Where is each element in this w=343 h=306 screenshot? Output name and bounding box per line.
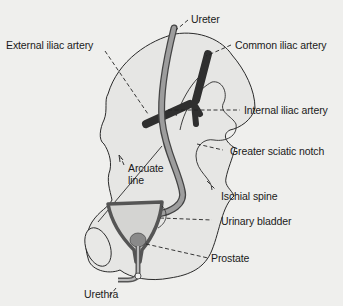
prostate-shape (130, 233, 146, 247)
label-arcuate-line-1: Arcuate (128, 162, 164, 174)
label-ureter: Ureter (191, 13, 220, 25)
label-common-iliac-artery: Common iliac artery (235, 39, 326, 51)
label-internal-iliac-artery: Internal iliac artery (244, 104, 328, 116)
label-arcuate-line: Arcuate line (128, 162, 164, 186)
pelvis-diagram: Ureter External iliac artery Common ilia… (0, 0, 343, 306)
label-arcuate-line-2: line (128, 174, 164, 186)
label-ischial-spine: Ischial spine (221, 190, 277, 202)
label-urethra: Urethra (84, 288, 118, 300)
label-urinary-bladder: Urinary bladder (221, 215, 291, 227)
label-greater-sciatic-notch: Greater sciatic notch (230, 145, 324, 157)
label-external-iliac-artery: External iliac artery (6, 39, 93, 51)
label-prostate: Prostate (211, 252, 249, 264)
